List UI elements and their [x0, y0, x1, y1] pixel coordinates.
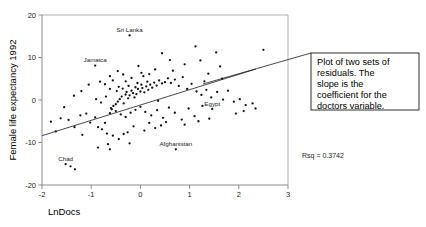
rsq-label: Rsq = 0.3742 [302, 152, 344, 160]
data-point [89, 121, 91, 123]
data-point [194, 45, 196, 47]
data-point [169, 59, 171, 61]
data-point [130, 77, 132, 79]
data-point [143, 129, 145, 131]
data-point [155, 84, 157, 86]
data-point [167, 77, 169, 79]
data-point [105, 95, 107, 97]
callout-line: Plot of two sets of [317, 57, 390, 67]
data-point [200, 94, 202, 96]
data-point [193, 115, 195, 117]
data-point [149, 84, 151, 86]
callout-line: doctors variable. [317, 101, 384, 111]
data-point [153, 81, 155, 83]
data-point [262, 49, 264, 51]
data-point [216, 91, 218, 93]
data-point [97, 146, 99, 148]
regression-line [42, 69, 256, 136]
data-point [254, 107, 256, 109]
data-point [118, 138, 120, 140]
data-point [207, 73, 209, 75]
data-point [147, 89, 149, 91]
data-point [128, 142, 130, 144]
data-point [118, 86, 120, 88]
x-tick-label: 1 [188, 190, 192, 199]
data-point [172, 70, 174, 72]
data-point [195, 90, 197, 92]
data-point [245, 104, 247, 106]
data-point [115, 103, 117, 105]
data-point [81, 134, 83, 136]
data-point [154, 127, 156, 129]
data-point [127, 97, 129, 99]
data-point [64, 163, 66, 165]
data-point [161, 52, 163, 54]
data-point [125, 91, 127, 93]
point-label: Jamaica [84, 56, 108, 63]
data-point [203, 80, 205, 82]
data-point [239, 98, 241, 100]
data-point [137, 65, 139, 67]
data-point [140, 72, 142, 74]
x-tick-label: -1 [88, 190, 95, 199]
data-point [124, 80, 126, 82]
data-point [235, 112, 237, 114]
data-point [182, 76, 184, 78]
data-point [211, 108, 213, 110]
scatter-points [50, 34, 265, 170]
data-point [123, 102, 125, 104]
data-point [227, 90, 229, 92]
y-tick-label: 0 [32, 96, 36, 105]
data-point [130, 90, 132, 92]
data-point [251, 102, 253, 104]
data-point [142, 75, 144, 77]
x-axis-ticks [42, 185, 288, 189]
data-point [128, 94, 130, 96]
data-point [174, 78, 176, 80]
data-point [63, 106, 65, 108]
y-tick-label: 20 [28, 11, 36, 20]
callout-line: coefficient for the [317, 90, 387, 100]
data-point [117, 101, 119, 103]
data-point [99, 81, 101, 83]
data-point [184, 124, 186, 126]
x-axis-tick-labels: -2 -1 0 1 2 3 [39, 190, 290, 199]
data-point [143, 91, 145, 93]
data-point [50, 121, 52, 123]
data-point [139, 90, 141, 92]
data-point [160, 124, 162, 126]
data-point [197, 120, 199, 122]
data-point [124, 116, 126, 118]
data-point [146, 81, 148, 83]
data-point [73, 126, 75, 128]
data-point [134, 86, 136, 88]
data-point [141, 87, 143, 89]
point-label: Egypt [204, 100, 220, 107]
data-point [112, 105, 114, 107]
data-point [151, 87, 153, 89]
data-point [88, 84, 90, 86]
data-point [210, 96, 212, 98]
data-point [128, 34, 130, 36]
data-point [170, 82, 172, 84]
data-point [184, 63, 186, 65]
data-point [156, 109, 158, 111]
data-point [126, 131, 128, 133]
data-point [148, 73, 150, 75]
data-point [165, 121, 167, 123]
data-point [161, 82, 163, 84]
data-point [127, 85, 129, 87]
scatter-plot-figure: 20 10 0 -10 -20 -2 -1 0 1 2 3 Female lif… [0, 0, 426, 227]
data-point [80, 90, 82, 92]
x-tick-label: -2 [39, 190, 46, 199]
data-point [133, 96, 135, 98]
data-point [140, 84, 142, 86]
data-point [124, 93, 126, 95]
y-axis-tick-labels: 20 10 0 -10 -20 [25, 11, 36, 190]
data-point [109, 88, 111, 90]
x-axis-title: LnDocs [48, 206, 80, 217]
data-point [79, 114, 81, 116]
data-point [117, 70, 119, 72]
data-point [175, 148, 177, 150]
data-point [201, 105, 203, 107]
